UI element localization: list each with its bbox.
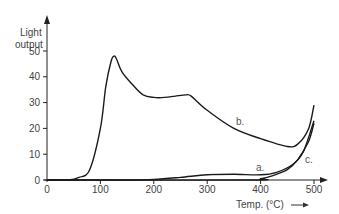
y-axis-label-line2: output <box>15 39 43 50</box>
x-tick-label: 200 <box>145 184 162 195</box>
curve-label-b: b. <box>236 116 244 127</box>
y-ticks: 01020304050 <box>29 46 47 186</box>
curves <box>47 56 314 180</box>
x-tick-label: 0 <box>44 184 50 195</box>
x-tick-label: 300 <box>199 184 216 195</box>
curve-a <box>47 121 314 180</box>
y-axis-arrow-icon <box>44 15 50 24</box>
x-tick-label: 100 <box>92 184 109 195</box>
x-ticks: 0100200300400500 <box>44 180 323 195</box>
x-label-arrow-icon <box>303 203 309 208</box>
x-axis-label: Temp. (°C) <box>236 199 284 210</box>
chart: 01020304050 0100200300400500 Light outpu… <box>0 0 339 214</box>
y-tick-label: 10 <box>29 149 41 160</box>
y-tick-label: 20 <box>29 123 41 134</box>
curve-c <box>47 123 314 180</box>
x-tick-label: 400 <box>252 184 269 195</box>
y-tick-label: 30 <box>29 97 41 108</box>
x-tick-label: 500 <box>306 184 323 195</box>
y-tick-label: 0 <box>34 175 40 186</box>
y-axis-label-line1: Light <box>20 27 42 38</box>
curve-label-c: c. <box>305 154 313 165</box>
x-axis-arrow-icon <box>320 177 328 183</box>
y-tick-label: 40 <box>29 71 41 82</box>
curve-b <box>47 56 314 180</box>
curve-label-a: a. <box>256 162 264 173</box>
